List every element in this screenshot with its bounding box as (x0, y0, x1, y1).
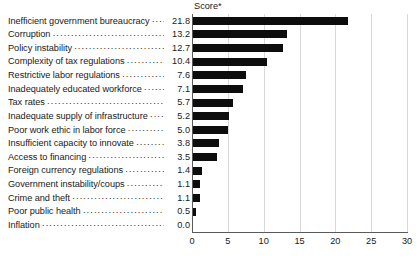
x-axis-line (192, 232, 408, 233)
dot-leader (125, 166, 164, 175)
category-value: 10.4 (166, 56, 192, 66)
category-row: Access to financing3.5 (0, 150, 192, 163)
gridline (300, 14, 301, 232)
category-value: 1.4 (166, 165, 192, 175)
category-row: Crime and theft1.1 (0, 191, 192, 204)
category-label: Inadequate supply of infrastructure (0, 111, 148, 121)
x-tick-label: 20 (330, 236, 340, 246)
dot-leader (83, 207, 164, 216)
gridline (335, 14, 336, 232)
x-tick-label: 10 (259, 236, 269, 246)
gridline (371, 14, 372, 232)
dot-leader (72, 193, 164, 202)
x-tick-label: 25 (366, 236, 376, 246)
dot-leader (47, 98, 164, 107)
dot-leader (122, 71, 164, 80)
category-label: Inadequately educated workforce (0, 84, 142, 94)
category-label: Inefficient government bureaucracy (0, 16, 150, 26)
dot-leader (127, 57, 164, 66)
bar (192, 44, 283, 52)
x-tick-label: 15 (294, 236, 304, 246)
category-label: Crime and theft (0, 193, 70, 203)
category-value: 7.6 (166, 70, 192, 80)
category-value: 1.1 (166, 193, 192, 203)
category-label: Insufficient capacity to innovate (0, 138, 134, 148)
bar (192, 126, 228, 134)
category-label: Corruption (0, 29, 50, 39)
x-tick-label: 0 (189, 236, 194, 246)
dot-leader (136, 139, 164, 148)
category-value: 12.7 (166, 43, 192, 53)
category-label: Poor work ethic in labor force (0, 125, 125, 135)
category-value: 0.0 (166, 220, 192, 230)
dot-leader (52, 30, 164, 39)
bar (192, 58, 267, 66)
y-axis-line (192, 14, 193, 233)
category-label: Complexity of tax regulations (0, 56, 125, 66)
category-row: Inefficient government bureaucracy21.8 (0, 14, 192, 27)
gridline (407, 14, 408, 232)
category-row: Restrictive labor regulations7.6 (0, 69, 192, 82)
chart-screenshot: Inefficient government bureaucracy21.8Co… (0, 0, 420, 268)
category-label: Policy instability (0, 43, 72, 53)
plot-area (192, 14, 407, 232)
bar (192, 194, 200, 202)
dot-leader (127, 125, 164, 134)
bar (192, 30, 287, 38)
category-label: Foreign currency regulations (0, 165, 123, 175)
plot-title: Score* (194, 1, 222, 11)
bar (192, 180, 200, 188)
category-value: 21.8 (166, 16, 192, 26)
dot-leader (152, 16, 164, 25)
category-value: 1.1 (166, 179, 192, 189)
bar (192, 99, 233, 107)
category-value: 0.5 (166, 206, 192, 216)
bar (192, 153, 217, 161)
category-row: Inadequately educated workforce7.1 (0, 82, 192, 95)
category-label: Access to financing (0, 152, 86, 162)
category-row: Insufficient capacity to innovate3.8 (0, 137, 192, 150)
bar (192, 112, 229, 120)
category-row: Inflation0.0 (0, 218, 192, 231)
category-value: 7.1 (166, 84, 192, 94)
category-row: Tax rates5.7 (0, 96, 192, 109)
category-label: Poor public health (0, 206, 81, 216)
category-label: Government instability/coups (0, 179, 125, 189)
category-row: Poor public health0.5 (0, 205, 192, 218)
bar (192, 71, 246, 79)
category-row: Foreign currency regulations1.4 (0, 164, 192, 177)
category-label: Tax rates (0, 97, 45, 107)
category-row: Corruption13.2 (0, 28, 192, 41)
dot-leader (74, 43, 164, 52)
dot-leader (42, 220, 164, 229)
bar (192, 85, 243, 93)
category-value: 5.7 (166, 97, 192, 107)
bar (192, 17, 348, 25)
bar (192, 139, 219, 147)
dot-leader (88, 152, 164, 161)
category-value: 3.5 (166, 152, 192, 162)
category-label-column: Inefficient government bureaucracy21.8Co… (0, 0, 192, 268)
category-value: 3.8 (166, 138, 192, 148)
bar (192, 167, 202, 175)
category-row: Poor work ethic in labor force5.0 (0, 123, 192, 136)
category-value: 5.0 (166, 125, 192, 135)
category-label: Inflation (0, 220, 40, 230)
dot-leader (127, 180, 164, 189)
category-row: Policy instability12.7 (0, 41, 192, 54)
category-value: 5.2 (166, 111, 192, 121)
category-row: Inadequate supply of infrastructure5.2 (0, 109, 192, 122)
category-label: Restrictive labor regulations (0, 70, 120, 80)
x-tick-label: 30 (402, 236, 412, 246)
category-value: 13.2 (166, 29, 192, 39)
x-tick-label: 5 (225, 236, 230, 246)
category-row: Complexity of tax regulations10.4 (0, 55, 192, 68)
dot-leader (150, 111, 164, 120)
dot-leader (144, 84, 164, 93)
category-row: Government instability/coups1.1 (0, 178, 192, 191)
